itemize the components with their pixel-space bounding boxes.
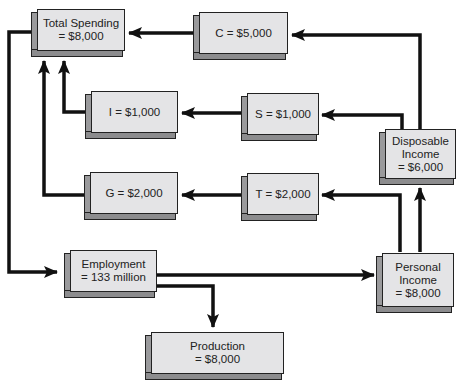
arrow-employment-to-production	[157, 286, 213, 327]
box-total-spending: Total Spending = $8,000	[31, 9, 125, 57]
box-taxes: T = $2,000	[241, 173, 319, 221]
personal-income-label-2: Income	[399, 274, 437, 287]
box-consumption: C = $5,000	[193, 12, 288, 60]
employment-value: = 133 million	[81, 271, 146, 284]
box-government: G = $2,000	[84, 172, 178, 220]
box-production: Production = $8,000	[145, 332, 284, 380]
arrow-personal-to-taxes	[322, 195, 400, 252]
total-spending-label: Total Spending	[43, 17, 119, 30]
box-personal-income: Personal Income = $8,000	[376, 253, 454, 313]
box-investment: I = $1,000	[85, 91, 178, 139]
government-label: G = $2,000	[105, 187, 162, 200]
circular-flow-diagram: Total Spending = $8,000 C = $5,000 I = $…	[0, 0, 467, 383]
production-value: = $8,000	[195, 353, 240, 366]
arrow-investment-to-total	[64, 61, 85, 112]
saving-label: S = $1,000	[255, 108, 311, 121]
box-saving: S = $1,000	[241, 93, 319, 141]
disposable-income-value: = $6,000	[398, 161, 443, 174]
consumption-label: C = $5,000	[215, 27, 272, 40]
personal-income-value: = $8,000	[395, 287, 440, 300]
taxes-label: T = $2,000	[255, 188, 310, 201]
total-spending-value: = $8,000	[58, 30, 103, 43]
personal-income-label-1: Personal	[395, 261, 440, 274]
employment-label: Employment	[82, 258, 146, 271]
arrow-disposable-to-saving	[322, 115, 402, 129]
arrow-total-spending-to-employment	[9, 32, 57, 272]
disposable-income-label-2: Income	[402, 148, 440, 161]
investment-label: I = $1,000	[109, 106, 160, 119]
production-label: Production	[190, 340, 245, 353]
box-disposable-income: Disposable Income = $6,000	[379, 129, 456, 185]
disposable-income-label-1: Disposable	[392, 135, 449, 148]
box-employment: Employment = 133 million	[64, 250, 157, 298]
